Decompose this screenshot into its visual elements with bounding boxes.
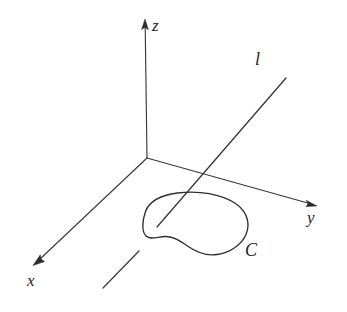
y-axis bbox=[147, 158, 317, 207]
curve-c-label: C bbox=[245, 241, 257, 259]
z-axis bbox=[142, 19, 149, 158]
y-axis-line bbox=[147, 158, 310, 204]
z-axis-line bbox=[145, 26, 147, 158]
z-axis-label: z bbox=[152, 17, 159, 34]
x-axis-line bbox=[40, 158, 148, 260]
line-l-label: l bbox=[255, 50, 260, 68]
axis-tick-mark bbox=[103, 251, 139, 288]
x-axis bbox=[33, 158, 147, 266]
diagram-svg bbox=[0, 0, 347, 312]
closed-curve-c bbox=[143, 192, 248, 255]
y-axis-label: y bbox=[307, 209, 315, 226]
figure-canvas: z x y l C bbox=[0, 0, 347, 312]
line-l bbox=[157, 78, 286, 227]
x-axis-label: x bbox=[27, 272, 35, 289]
